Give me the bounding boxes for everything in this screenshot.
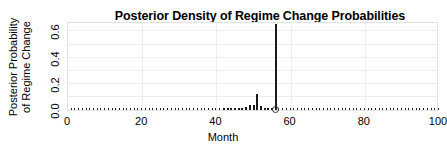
chart-stem [253, 105, 255, 110]
plot-area [67, 22, 438, 111]
chart-stem [275, 24, 277, 110]
chart-stem [212, 108, 213, 110]
chart-stem [379, 108, 380, 110]
x-tick-label-1: 20 [135, 115, 147, 127]
chart-stem [382, 108, 383, 110]
chart-stem [186, 108, 187, 110]
chart-stem [260, 106, 262, 110]
chart-stem [368, 108, 369, 110]
chart-stem [323, 108, 324, 110]
chart-stem [152, 108, 153, 110]
gridline-horizontal [68, 96, 437, 97]
chart-stem [234, 108, 236, 110]
gridline-vertical [142, 23, 143, 110]
chart-stem [193, 108, 194, 110]
chart-stem [434, 108, 435, 110]
chart-stem [245, 107, 247, 110]
chart-stem [197, 108, 198, 110]
chart-stem [182, 108, 183, 110]
chart-stem [282, 108, 283, 110]
chart-stem [130, 108, 131, 110]
chart-stem [308, 108, 309, 110]
chart-stem [390, 108, 391, 110]
chart-stem [156, 108, 157, 110]
chart-stem [330, 108, 331, 110]
chart-stem [241, 108, 243, 110]
gridline-horizontal [68, 44, 437, 45]
chart-stem [230, 108, 232, 110]
chart-stem [126, 108, 127, 110]
chart-stem [264, 108, 266, 110]
x-axis-title: Month [0, 131, 446, 143]
chart-stem [145, 108, 146, 110]
x-tick-label-2: 40 [209, 115, 221, 127]
gridline-horizontal [68, 57, 437, 58]
chart-stem [338, 108, 339, 110]
chart-stem [316, 108, 317, 110]
chart-stem [312, 108, 313, 110]
chart-stem [115, 108, 116, 110]
chart-stem [342, 108, 343, 110]
chart-stem [204, 108, 205, 110]
chart-stem [123, 108, 124, 110]
chart-title: Posterior Density of Regime Change Proba… [95, 9, 425, 23]
chart-stem [71, 108, 72, 110]
chart-stem [375, 108, 376, 110]
y-tick-label-2: 0.4 [48, 46, 62, 72]
chart-stem [393, 108, 394, 110]
chart-stem [82, 108, 83, 110]
chart-stem [93, 108, 94, 110]
chart-stem [227, 108, 229, 110]
y-tick-label-0: 0.0 [48, 98, 62, 124]
x-tick-label-0: 0 [64, 115, 70, 127]
chart-stem [386, 108, 387, 110]
x-tick-label-5: 100 [429, 115, 447, 127]
chart-stem [97, 108, 98, 110]
chart-stem [163, 108, 164, 110]
chart-stem [345, 108, 346, 110]
chart-stem [249, 105, 251, 110]
chart-stem [401, 108, 402, 110]
chart-stem [160, 108, 161, 110]
chart-stem [100, 108, 101, 110]
chart-stem [149, 108, 150, 110]
chart-stem [201, 108, 202, 110]
chart-stem [431, 108, 432, 110]
chart-stem [256, 94, 258, 110]
chart-stem [178, 108, 179, 110]
chart-stem [419, 108, 420, 110]
chart-stem [301, 108, 302, 110]
chart-stem [219, 108, 220, 110]
y-tick-label-1: 0.2 [48, 72, 62, 98]
x-tick-label-4: 80 [358, 115, 370, 127]
chart-stem [141, 108, 142, 110]
chart-stem [119, 108, 120, 110]
chart-stem [360, 108, 361, 110]
chart-stem [416, 108, 417, 110]
chart-stem [175, 108, 176, 110]
chart-stem [286, 108, 287, 110]
y-tick-label-3: 0.6 [48, 19, 62, 45]
chart-stem [334, 108, 335, 110]
gridline-horizontal [68, 70, 437, 71]
gridline-horizontal [68, 83, 437, 84]
gridline-vertical [216, 23, 217, 110]
chart-stem [427, 108, 428, 110]
chart-stem [134, 108, 135, 110]
chart-stem [297, 108, 298, 110]
chart-stem [104, 108, 105, 110]
chart-stem [215, 108, 216, 110]
chart-stem [408, 108, 409, 110]
chart-stem [304, 108, 305, 110]
chart-stem [86, 108, 87, 110]
chart-stem [397, 108, 398, 110]
gridline-horizontal [68, 30, 437, 31]
chart-stem [167, 108, 168, 110]
chart-stem [293, 108, 294, 110]
chart-stem [405, 108, 406, 110]
gridline-vertical [365, 23, 366, 110]
chart-stem [290, 108, 291, 110]
chart-stem [208, 108, 209, 110]
x-tick-label-3: 60 [283, 115, 295, 127]
